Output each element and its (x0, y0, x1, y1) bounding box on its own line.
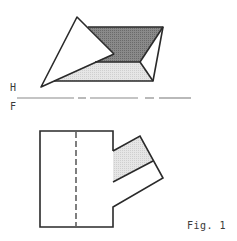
plane-label-h: H (10, 83, 16, 93)
plane-label-f: F (10, 102, 16, 112)
figure-caption: Fig. 1 (187, 221, 226, 231)
main-body-outline (40, 131, 163, 227)
front-view (40, 131, 163, 227)
light-shaded-face (54, 62, 153, 81)
drawing-canvas (0, 0, 237, 241)
branch-shaded-face (113, 136, 153, 182)
top-view (41, 17, 163, 87)
